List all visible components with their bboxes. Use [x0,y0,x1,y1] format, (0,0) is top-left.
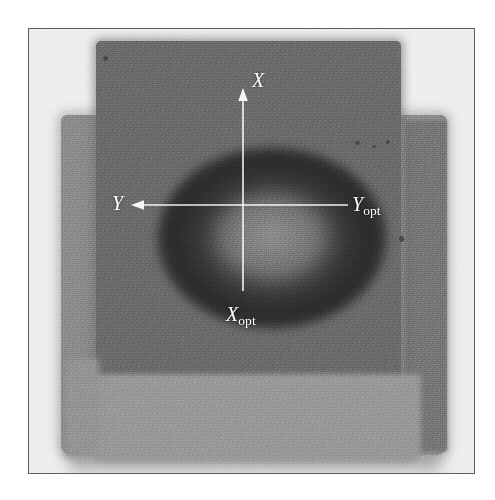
ring-core-bright [215,195,327,277]
lower-band [91,374,421,462]
surface-speck [386,140,390,144]
left-sliver [65,359,99,457]
surface-speck [355,141,360,145]
surface-speck [372,145,376,148]
surface-speck [399,236,404,242]
surface-speck [103,56,108,61]
figure-root: X Y Yopt Xopt [0,0,495,500]
image-plate-frame [28,28,475,474]
